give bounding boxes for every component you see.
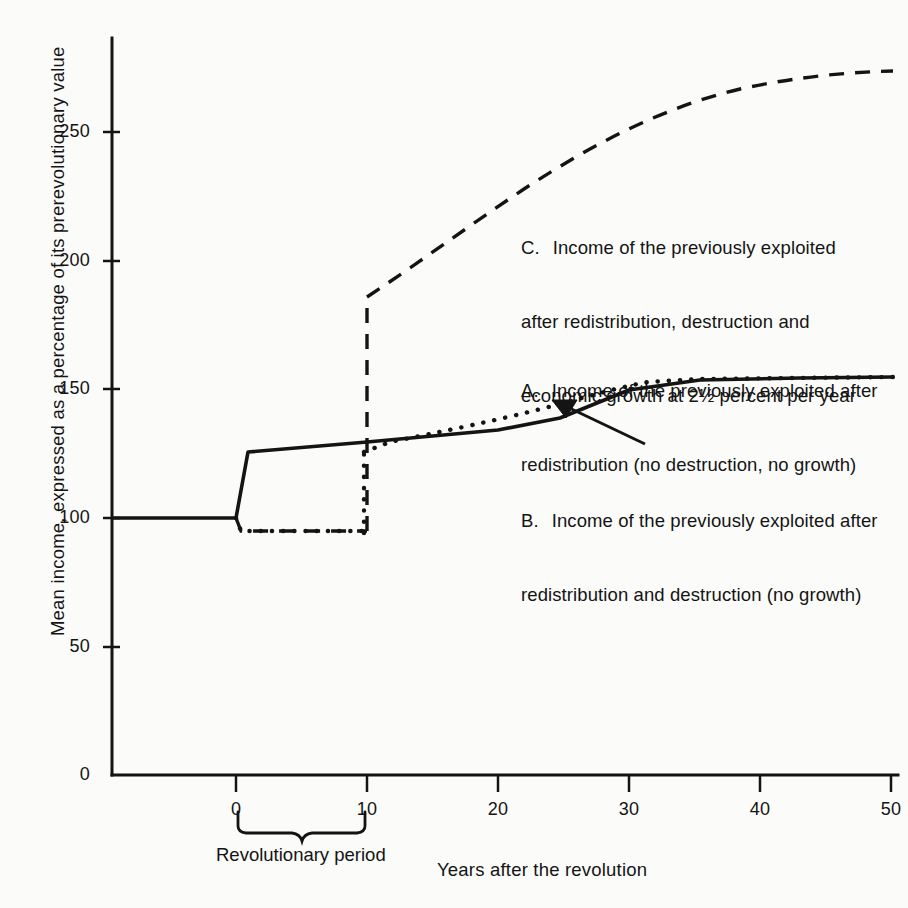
- annotation-c-index: C.: [521, 237, 540, 258]
- series-c-line: [236, 518, 367, 531]
- series-b-line: [236, 518, 362, 531]
- y-tick-label-50: 50: [24, 635, 90, 658]
- x-tick-label-50: 50: [866, 798, 908, 821]
- annotation-b: B.Income of the previously exploited aft…: [521, 460, 878, 657]
- y-tick-label-0: 0: [24, 763, 90, 786]
- annotation-a-text-1: Income of the previously exploited after: [552, 380, 878, 401]
- x-tick-label-20: 20: [473, 798, 523, 821]
- annotation-a-line-1: A.Income of the previously exploited aft…: [521, 379, 878, 404]
- annotation-b-index: B.: [521, 510, 539, 531]
- x-tick-label-0: 0: [211, 798, 261, 821]
- annotation-c-line-1: C.Income of the previously exploited: [521, 236, 856, 261]
- x-tick-label-30: 30: [604, 798, 654, 821]
- x-tick-label-40: 40: [735, 798, 785, 821]
- chart-figure: 250 200 150 100 50 0 0 10 20 30 40 50 Me…: [0, 0, 908, 908]
- revolutionary-period-label: Revolutionary period: [216, 843, 386, 866]
- annotation-b-text-1: Income of the previously exploited after: [552, 510, 878, 531]
- annotation-c-text-1: Income of the previously exploited: [553, 237, 836, 258]
- annotation-a-index: A.: [521, 380, 539, 401]
- annotation-b-line-1: B.Income of the previously exploited aft…: [521, 509, 878, 534]
- x-axis-title: Years after the revolution: [437, 858, 647, 881]
- annotation-b-line-2: redistribution and destruction (no growt…: [521, 583, 878, 608]
- x-axis-ticks: [236, 775, 891, 792]
- x-tick-label-10: 10: [342, 798, 392, 821]
- y-axis-title: Mean income, expressed as a percentage o…: [46, 47, 69, 636]
